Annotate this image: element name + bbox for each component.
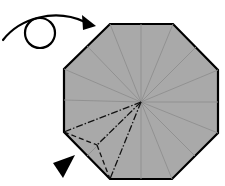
origami-diagram xyxy=(0,0,225,186)
push-in-arrow-icon xyxy=(53,155,75,178)
turn-over-icon xyxy=(3,16,85,48)
turn-over-arrowhead-icon xyxy=(82,15,96,30)
diagram-canvas xyxy=(0,0,225,186)
